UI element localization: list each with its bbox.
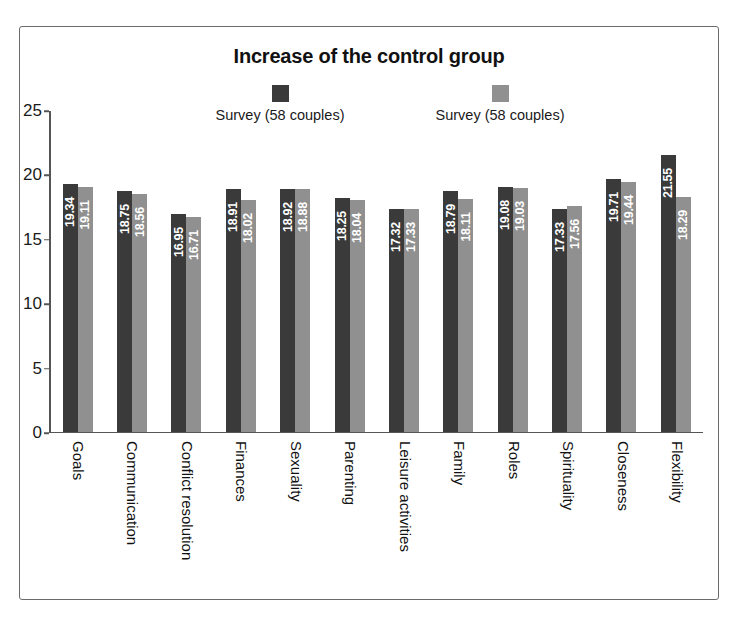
bar: 17.32 (389, 209, 404, 431)
bar-value-label: 19.34 (63, 197, 77, 227)
y-tick-label: 0 (33, 423, 42, 443)
bar-group: 18.9218.88 (268, 111, 322, 432)
bar: 18.75 (117, 191, 132, 431)
x-axis-labels: GoalsCommunicationConflict resolutionFin… (51, 435, 705, 595)
bar: 21.55 (661, 155, 676, 431)
bar-value-label: 18.75 (118, 204, 132, 234)
chart-frame: Increase of the control group Survey (58… (19, 26, 719, 600)
x-label-cell: Roles (487, 435, 542, 595)
bar-value-label: 18.56 (133, 207, 147, 237)
y-tick-mark (44, 432, 49, 434)
bar-value-label: 17.56 (568, 220, 582, 250)
x-label-cell: Leisure activities (378, 435, 433, 595)
x-tick-label: Flexibility (669, 441, 686, 503)
x-tick-label: Conflict resolution (178, 441, 195, 560)
bar-value-label: 19.71 (607, 192, 621, 222)
x-label-cell: Goals (51, 435, 106, 595)
bar-value-label: 16.71 (187, 230, 201, 260)
bar: 18.02 (241, 200, 256, 431)
x-tick-label: Roles (505, 441, 522, 479)
y-tick-label: 15 (23, 230, 42, 250)
x-label-cell: Closeness (596, 435, 651, 595)
bar: 19.34 (63, 184, 78, 432)
x-tick-label: Family (451, 441, 468, 485)
bar: 19.71 (606, 179, 621, 432)
bar-value-label: 19.03 (513, 201, 527, 231)
bar: 16.95 (171, 214, 186, 431)
x-label-cell: Finances (214, 435, 269, 595)
y-tick-mark (44, 303, 49, 305)
y-tick-label: 25 (23, 101, 42, 121)
x-label-cell: Conflict resolution (160, 435, 215, 595)
x-tick-label: Leisure activities (396, 441, 413, 552)
bar-value-label: 17.32 (389, 223, 403, 253)
bar-group: 16.9516.71 (159, 111, 213, 432)
x-tick-label: Spirituality (560, 441, 577, 510)
x-tick-label: Communication (124, 441, 141, 545)
bar: 16.71 (186, 217, 201, 431)
x-label-cell: Spirituality (541, 435, 596, 595)
bar-value-label: 18.11 (459, 213, 473, 242)
bar-groups: 19.3419.1118.7518.5616.9516.7118.9118.02… (51, 111, 704, 432)
bar-value-label: 17.33 (404, 222, 418, 252)
bar-value-label: 18.04 (350, 213, 364, 243)
bar: 19.44 (621, 182, 636, 431)
bar: 17.33 (552, 209, 567, 431)
x-label-cell: Flexibility (650, 435, 705, 595)
bar-group: 19.7119.44 (594, 111, 648, 432)
bar: 18.04 (350, 200, 365, 431)
bar: 18.11 (458, 199, 473, 431)
bar-value-label: 18.88 (296, 203, 310, 233)
x-tick-label: Finances (233, 441, 250, 502)
bar-value-label: 21.55 (661, 168, 675, 198)
bar: 19.11 (78, 187, 93, 432)
plot-area: 0510152025 19.3419.1118.7518.5616.9516.7… (49, 111, 703, 433)
bar-value-label: 18.29 (676, 210, 690, 240)
bar-group: 18.7918.11 (431, 111, 485, 432)
chart-title: Increase of the control group (20, 45, 718, 68)
y-tick-mark (44, 368, 49, 370)
y-tick-label: 5 (33, 359, 42, 379)
bar-value-label: 16.95 (172, 227, 186, 257)
bar: 19.08 (498, 187, 513, 432)
bar-value-label: 18.02 (241, 214, 255, 244)
bar-group: 17.3317.56 (540, 111, 594, 432)
x-label-cell: Communication (105, 435, 160, 595)
bar-value-label: 18.79 (444, 204, 458, 234)
x-tick-label: Parenting (342, 441, 359, 505)
x-axis-line (49, 432, 703, 434)
bar-group: 18.9118.02 (214, 111, 268, 432)
bar-value-label: 19.11 (78, 200, 92, 229)
bar: 18.91 (226, 189, 241, 431)
bar-group: 17.3217.33 (377, 111, 431, 432)
bar: 17.56 (567, 206, 582, 431)
y-tick-mark (44, 110, 49, 112)
bar-group: 21.5518.29 (649, 111, 703, 432)
x-tick-label: Closeness (614, 441, 631, 511)
dark-square-swatch-icon (272, 85, 289, 102)
bar: 18.92 (280, 189, 295, 432)
bar-group: 19.3419.11 (51, 111, 105, 432)
x-label-cell: Family (432, 435, 487, 595)
bar-value-label: 18.92 (281, 202, 295, 232)
bar: 18.25 (335, 198, 350, 432)
bar-value-label: 18.25 (335, 211, 349, 241)
bar-group: 19.0819.03 (486, 111, 540, 432)
bar-group: 18.2518.04 (322, 111, 376, 432)
bar: 18.29 (676, 197, 691, 431)
x-tick-label: Goals (69, 441, 86, 480)
light-square-swatch-icon (492, 85, 509, 102)
x-label-cell: Parenting (323, 435, 378, 595)
y-tick-mark (44, 239, 49, 241)
x-label-cell: Sexuality (269, 435, 324, 595)
bar-value-label: 17.33 (553, 222, 567, 252)
bar-group: 18.7518.56 (105, 111, 159, 432)
y-tick-mark (44, 175, 49, 177)
bar: 19.03 (513, 188, 528, 432)
bar: 18.88 (295, 189, 310, 431)
bar-value-label: 19.44 (622, 195, 636, 225)
bar-value-label: 19.08 (498, 200, 512, 230)
y-tick-label: 20 (23, 165, 42, 185)
bar-value-label: 18.91 (226, 202, 240, 232)
y-tick-label: 10 (23, 294, 42, 314)
